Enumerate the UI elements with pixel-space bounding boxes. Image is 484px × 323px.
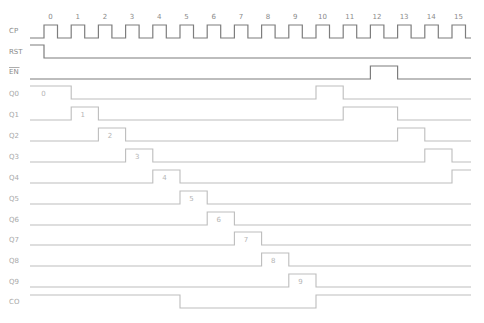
clock-tick-6: 6 (211, 13, 216, 21)
waveform-value-labels: 0123456789 (41, 90, 302, 286)
clock-tick-14: 14 (427, 13, 436, 21)
waveform-q7 (30, 232, 471, 245)
waveform-q9 (30, 274, 471, 287)
signal-labels: CPRSTENQ0Q1Q2Q3Q4Q5Q6Q7Q8Q9CO (9, 27, 23, 306)
count-value-0: 0 (41, 90, 45, 98)
count-value-4: 4 (162, 174, 167, 182)
waveform-q8 (30, 253, 471, 266)
clock-tick-7: 7 (239, 13, 243, 21)
count-value-1: 1 (81, 111, 85, 119)
count-value-9: 9 (298, 278, 302, 286)
count-value-6: 6 (217, 216, 222, 224)
clock-tick-2: 2 (103, 13, 107, 21)
clock-tick-12: 12 (372, 13, 381, 21)
signal-label-q9: Q9 (9, 278, 19, 286)
count-value-7: 7 (244, 236, 248, 244)
signal-label-cp: CP (9, 27, 18, 35)
signal-waveforms (30, 25, 471, 308)
signal-label-q1: Q1 (9, 111, 19, 119)
clock-tick-15: 15 (454, 13, 463, 21)
waveform-q3 (30, 149, 471, 162)
timing-diagram: 0123456789101112131415 CPRSTENQ0Q1Q2Q3Q4… (0, 0, 484, 323)
waveform-q0 (30, 86, 471, 99)
clock-tick-4: 4 (157, 13, 162, 21)
waveform-q4 (30, 170, 471, 183)
waveform-q6 (30, 212, 471, 225)
clock-tick-1: 1 (75, 13, 79, 21)
waveform-en (30, 66, 471, 79)
signal-label-co: CO (9, 298, 20, 306)
signal-label-q5: Q5 (9, 195, 19, 203)
signal-label-q6: Q6 (9, 216, 20, 224)
count-value-3: 3 (135, 153, 139, 161)
clock-tick-11: 11 (345, 13, 354, 21)
signal-label-q3: Q3 (9, 153, 19, 161)
clock-tick-labels: 0123456789101112131415 (48, 13, 463, 21)
signal-label-en: EN (9, 68, 19, 76)
count-value-2: 2 (108, 132, 112, 140)
clock-tick-9: 9 (293, 13, 297, 21)
count-value-5: 5 (189, 195, 193, 203)
signal-label-rst: RST (9, 48, 23, 56)
waveform-co (30, 295, 471, 308)
waveform-q1 (30, 107, 471, 120)
signal-label-q2: Q2 (9, 132, 19, 140)
clock-tick-8: 8 (266, 13, 270, 21)
signal-label-q8: Q8 (9, 257, 19, 265)
signal-label-q4: Q4 (9, 174, 20, 182)
clock-tick-13: 13 (400, 13, 409, 21)
waveform-q5 (30, 191, 471, 204)
waveform-cp (30, 25, 471, 38)
clock-tick-10: 10 (318, 13, 327, 21)
clock-tick-5: 5 (184, 13, 188, 21)
waveform-rst (30, 45, 471, 58)
waveform-q2 (30, 128, 471, 141)
clock-tick-0: 0 (48, 13, 52, 21)
signal-label-q7: Q7 (9, 236, 19, 244)
clock-tick-3: 3 (130, 13, 134, 21)
count-value-8: 8 (271, 257, 275, 265)
signal-label-q0: Q0 (9, 90, 19, 98)
